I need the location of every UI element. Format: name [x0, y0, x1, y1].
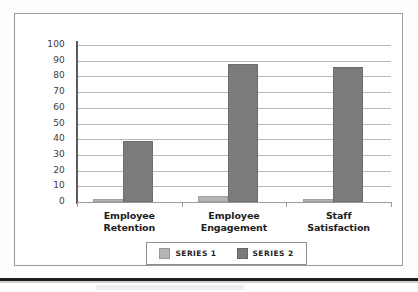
value-axis-tick-label: 90 — [53, 56, 65, 65]
bar-series-2 — [333, 67, 363, 202]
value-axis-tick-label: 30 — [53, 150, 65, 159]
legend-entry-series-1: SERIES 1 — [159, 248, 216, 259]
value-axis-tick-label: 100 — [47, 40, 65, 49]
bar-series-2 — [123, 141, 153, 202]
category-axis-line — [77, 202, 391, 203]
value-axis-tick-label: 60 — [53, 103, 65, 112]
scan-artifact-smudge — [96, 285, 244, 290]
category-label: StaffSatisfaction — [286, 210, 391, 233]
category-label-line: Staff — [286, 210, 391, 222]
category-label-line: Retention — [77, 222, 182, 234]
value-axis-tick-label: 0 — [59, 197, 65, 206]
category-label: EmployeeEngagement — [182, 210, 287, 233]
value-axis-tick-label: 40 — [53, 134, 65, 143]
category-axis-tick — [77, 202, 78, 207]
gridline — [77, 45, 391, 46]
category-axis-tick — [286, 202, 287, 207]
category-label: EmployeeRetention — [77, 210, 182, 233]
bar-series-2 — [228, 64, 258, 202]
category-label-line: Employee — [182, 210, 287, 222]
value-axis-tick-label: 10 — [53, 181, 65, 190]
scanned-page: 1009080706050403020100 EmployeeRetention… — [0, 0, 418, 292]
legend-entry-series-2: SERIES 2 — [237, 248, 294, 259]
value-axis-tick-labels: 1009080706050403020100 — [33, 41, 71, 204]
value-axis-tick-label: 20 — [53, 166, 65, 175]
chart-frame: 1009080706050403020100 EmployeeRetention… — [14, 13, 403, 266]
legend-swatch-series-1-icon — [159, 248, 170, 259]
gridline — [77, 61, 391, 62]
value-axis-line — [76, 41, 78, 204]
value-axis-tick-label: 50 — [53, 119, 65, 128]
category-label-line: Satisfaction — [286, 222, 391, 234]
value-axis-tick-label: 70 — [53, 87, 65, 96]
legend-swatch-series-2-icon — [237, 248, 248, 259]
plot-area — [77, 45, 391, 202]
category-label-line: Employee — [77, 210, 182, 222]
legend-label-series-2: SERIES 2 — [253, 249, 294, 258]
value-axis-tick-label: 80 — [53, 71, 65, 80]
category-axis-tick — [391, 202, 392, 207]
chart-legend: SERIES 1 SERIES 2 — [146, 242, 307, 265]
scan-artifact-band-soft — [0, 281, 418, 283]
category-label-line: Engagement — [182, 222, 287, 234]
legend-label-series-1: SERIES 1 — [175, 249, 216, 258]
category-axis-tick — [182, 202, 183, 207]
